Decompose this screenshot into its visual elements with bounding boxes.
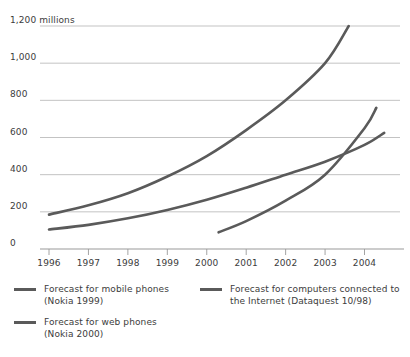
gridlines — [40, 26, 404, 249]
x-tick-label: 2000 — [187, 258, 227, 268]
legend-item-web-phones: Forecast for web phones (Nokia 2000) — [14, 316, 199, 340]
plot-area: 02004006008001,0001,200 millions 1996199… — [0, 0, 410, 275]
x-tick-label: 2001 — [226, 258, 266, 268]
chart-root: 02004006008001,0001,200 millions 1996199… — [0, 0, 410, 357]
x-tick-label: 1998 — [108, 258, 148, 268]
y-tick-label: 1,200 millions — [10, 15, 75, 25]
x-tick-label: 1999 — [147, 258, 187, 268]
chart-legend: Forecast for mobile phones (Nokia 1999) … — [0, 283, 410, 357]
y-tick-label: 200 — [10, 201, 27, 211]
legend-swatch-icon — [200, 288, 222, 291]
series-lines — [49, 26, 384, 232]
y-tick-label: 0 — [10, 238, 16, 248]
legend-label: Forecast for web phones (Nokia 2000) — [44, 316, 157, 340]
y-tick-label: 1,000 — [10, 52, 36, 62]
series-line — [49, 133, 384, 230]
series-line — [49, 26, 349, 215]
legend-label: Forecast for computers connected to the … — [230, 283, 400, 307]
legend-item-mobile-phones: Forecast for mobile phones (Nokia 1999) — [14, 283, 199, 307]
x-tick-label: 1996 — [29, 258, 69, 268]
x-tick-label: 1997 — [68, 258, 108, 268]
legend-item-internet-computers: Forecast for computers connected to the … — [200, 283, 410, 307]
x-tick-label: 2003 — [305, 258, 345, 268]
legend-swatch-icon — [14, 321, 36, 324]
y-tick-label: 600 — [10, 127, 27, 137]
x-tick-label: 2004 — [345, 258, 385, 268]
y-tick-label: 800 — [10, 89, 27, 99]
legend-label: Forecast for mobile phones (Nokia 1999) — [44, 283, 169, 307]
chart-svg — [0, 0, 410, 275]
x-tick-label: 2002 — [266, 258, 306, 268]
y-tick-label: 400 — [10, 164, 27, 174]
legend-swatch-icon — [14, 288, 36, 291]
x-tick-marks — [49, 249, 365, 255]
